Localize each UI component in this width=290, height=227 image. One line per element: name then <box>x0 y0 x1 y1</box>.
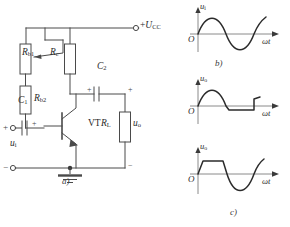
circuit-schematic <box>0 8 160 208</box>
plot-c2-origin-label: O <box>188 175 195 184</box>
panel-b-caption: b) <box>215 58 223 68</box>
input-terminal-bottom-circle <box>10 165 15 170</box>
plot-c2-svg <box>176 142 288 202</box>
supply-label: +UCC <box>140 21 161 31</box>
rb2-label: Rb2 <box>34 94 46 104</box>
output-signal-label: uo <box>133 119 141 129</box>
rl-label: RL <box>101 119 111 129</box>
plot-c1-xlabel: ωt <box>262 109 270 118</box>
output-minus-sign: − <box>128 162 133 170</box>
output-plus-sign: + <box>128 86 133 94</box>
plot-c1-x-arrowhead <box>272 103 279 109</box>
figure-container: Rb1 Rb2 Rc RL C1 C2 VT +UCC ui uo + − + … <box>0 0 290 227</box>
plot-c2-waveform-positive-clipped <box>198 159 264 191</box>
plot-b-svg <box>176 4 288 60</box>
c2-label: C2 <box>97 62 107 72</box>
plot-c1-origin-label: O <box>188 107 195 116</box>
rb1-wiper-arrowhead <box>34 54 42 59</box>
rb1-label: Rb1 <box>22 48 34 58</box>
plot-c2-x-arrowhead <box>272 171 279 177</box>
input-signal-label: ui <box>10 139 17 149</box>
plot-c2-ylabel: uo <box>200 142 207 151</box>
input-plus-sign: + <box>3 123 8 132</box>
vt-label: VT <box>88 119 101 129</box>
plot-b-origin-label: O <box>188 35 195 44</box>
vt-emitter-arrowhead <box>69 140 78 147</box>
plot-b: ui O ωt <box>176 4 288 60</box>
supply-terminal-circle <box>133 25 138 30</box>
panel-a-caption: a) <box>62 176 70 186</box>
plot-c2: uo O ωt <box>176 142 288 202</box>
rc-body <box>65 44 76 74</box>
c1-label: C1 <box>18 96 28 106</box>
vt-emitter-lead <box>62 133 76 168</box>
plot-c1-svg <box>176 76 288 132</box>
input-minus-sign: − <box>3 163 8 172</box>
c1-plus-sign: + <box>32 120 37 128</box>
plot-b-ylabel: ui <box>200 2 206 11</box>
plot-b-x-arrowhead <box>272 31 279 37</box>
panel-c-caption: c) <box>230 207 237 217</box>
plot-b-xlabel: ωt <box>262 37 270 46</box>
plot-c2-xlabel: ωt <box>262 177 270 186</box>
input-terminal-top-circle <box>10 125 15 130</box>
rl-body <box>120 112 131 142</box>
vt-collector-lead <box>62 94 76 119</box>
plot-c1-waveform-negative-clipped <box>198 90 260 110</box>
plot-b-waveform-full-sine <box>198 17 266 50</box>
plot-c1: uo O ωt <box>176 76 288 132</box>
plot-c1-ylabel: uo <box>200 74 207 83</box>
rc-label: Rc <box>50 48 59 58</box>
c2-plus-sign: + <box>87 86 92 94</box>
